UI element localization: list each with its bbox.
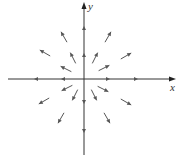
vector-arrow-icon bbox=[82, 53, 86, 57]
vector-arrow-icon bbox=[40, 50, 50, 56]
vector-arrow-icon bbox=[106, 77, 110, 81]
vector-field-diagram bbox=[0, 0, 186, 160]
vector-arrow-icon bbox=[121, 53, 131, 59]
vector-arrow-icon bbox=[61, 32, 67, 42]
vector-arrow-icon bbox=[61, 77, 65, 81]
vector-arrow-icon bbox=[34, 77, 38, 81]
vector-arrow-icon bbox=[72, 90, 77, 101]
vector-arrow-icon bbox=[70, 53, 75, 64]
vector-arrow-icon bbox=[98, 86, 109, 91]
vector-arrow-icon bbox=[61, 66, 72, 71]
vector-arrow-icon bbox=[82, 26, 86, 30]
vector-arrow-icon bbox=[58, 113, 64, 123]
vector-arrow-icon bbox=[39, 98, 49, 104]
vector-arrow-icon bbox=[121, 99, 131, 105]
vector-arrow-icon bbox=[104, 113, 110, 123]
vector-arrow-icon bbox=[82, 100, 86, 104]
vector-arrow-icon bbox=[91, 90, 96, 101]
x-axis-label: x bbox=[170, 81, 175, 93]
vector-arrow-icon bbox=[92, 53, 97, 64]
vector-arrow-icon bbox=[62, 85, 73, 90]
vector-arrow-icon bbox=[105, 32, 111, 42]
vector-arrow-icon bbox=[82, 129, 86, 133]
y-axis-label: y bbox=[88, 0, 93, 12]
y-axis-arrowhead-icon bbox=[82, 2, 87, 9]
vector-arrow-icon bbox=[99, 65, 110, 70]
vector-arrow-icon bbox=[134, 77, 138, 81]
